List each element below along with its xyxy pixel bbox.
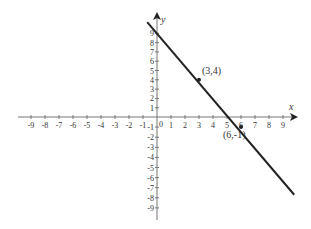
x-tick-label: 3 <box>197 121 201 130</box>
y-tick-label: 3 <box>150 85 154 94</box>
x-tick-label: -8 <box>42 121 49 130</box>
y-tick-label: 5 <box>150 67 154 76</box>
y-tick-label: -4 <box>147 153 154 162</box>
x-tick-label: -6 <box>70 121 77 130</box>
data-point-label: (6,-1) <box>223 129 246 141</box>
y-tick-label: -1 <box>147 123 154 132</box>
data-point-label: (3,4) <box>202 65 221 77</box>
series-line <box>147 22 294 195</box>
origin-label: 0 <box>159 120 163 129</box>
y-tick-label: 8 <box>150 39 154 48</box>
axes: x y 0 <box>18 12 298 220</box>
x-tick-label: 1 <box>169 121 173 130</box>
x-tick-label: -7 <box>56 121 63 130</box>
x-tick-label: -9 <box>28 121 35 130</box>
x-tick-label: -3 <box>112 121 119 130</box>
y-tick-label: 6 <box>150 57 154 66</box>
y-tick-label: -3 <box>147 143 154 152</box>
y-tick-label: -8 <box>147 194 154 203</box>
x-tick-label: 9 <box>281 121 285 130</box>
y-tick-label: -2 <box>147 133 154 142</box>
y-tick-label: 1 <box>150 104 154 113</box>
x-tick-label: -4 <box>98 121 105 130</box>
coordinate-plane: x y 0 -9-8-7-6-5-4-3-2-1123456789 -9-8-7… <box>0 0 311 229</box>
y-tick-label: -6 <box>147 174 154 183</box>
data-series <box>147 22 294 195</box>
data-points: (3,4)(6,-1) <box>197 65 246 141</box>
y-tick-label: -7 <box>147 184 154 193</box>
y-tick-label: -5 <box>147 164 154 173</box>
x-tick-label: -5 <box>84 121 91 130</box>
data-point <box>197 78 201 82</box>
y-axis-label: y <box>160 14 166 25</box>
y-tick-label: 2 <box>150 94 154 103</box>
x-tick-label: -1 <box>140 121 147 130</box>
y-tick-label: 7 <box>150 48 154 57</box>
x-axis-label: x <box>288 101 294 112</box>
x-tick-label: 7 <box>253 121 257 130</box>
y-tick-label: -9 <box>147 204 154 213</box>
x-tick-label: 4 <box>211 121 215 130</box>
x-tick-label: 2 <box>183 121 187 130</box>
y-tick-label: 4 <box>150 76 154 85</box>
x-tick-label: 8 <box>267 121 271 130</box>
x-tick-label: -2 <box>126 121 133 130</box>
